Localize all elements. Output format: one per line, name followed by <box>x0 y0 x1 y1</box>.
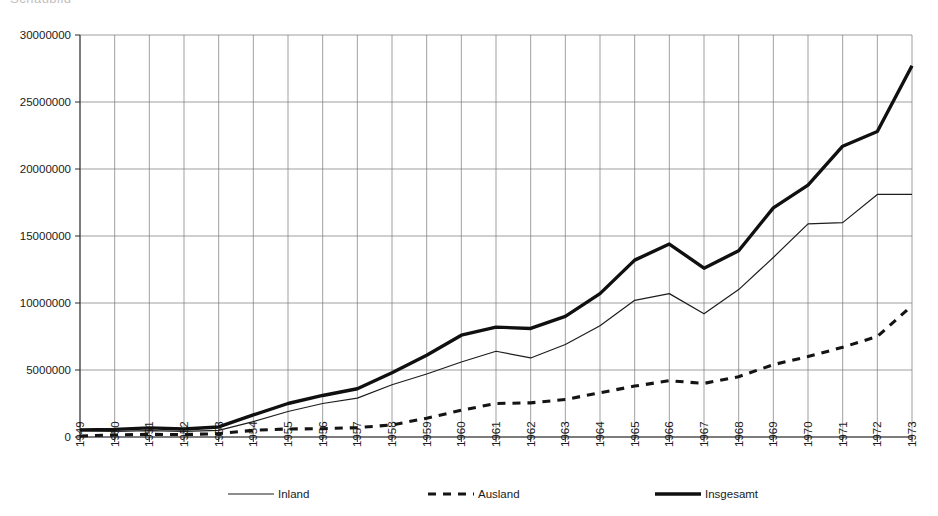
x-tick-label: 1968 <box>733 421 745 447</box>
x-tick-label: 1959 <box>421 421 433 447</box>
axes-layer <box>75 35 912 442</box>
x-tick-label: 1972 <box>871 421 883 447</box>
x-tick-label: 1954 <box>247 421 259 447</box>
y-tick-label: 30000000 <box>20 29 71 41</box>
y-tick-label: 5000000 <box>26 364 71 376</box>
y-tick-label: 15000000 <box>20 230 71 242</box>
x-tick-label: 1967 <box>698 421 710 447</box>
x-tick-label: 1963 <box>559 421 571 447</box>
clipped-page-title: Schaubild <box>10 0 72 6</box>
y-tick-label: 20000000 <box>20 163 71 175</box>
x-tick-label: 1964 <box>594 421 606 447</box>
chart-legend: InlandAuslandInsgesamt <box>228 488 759 500</box>
x-tick-label: 1960 <box>455 421 467 447</box>
x-tick-label: 1961 <box>490 421 502 447</box>
x-tick-label: 1971 <box>837 421 849 447</box>
chart-container: Schaubild 050000001000000015000000200000… <box>0 0 938 516</box>
x-tick-label: 1970 <box>802 421 814 447</box>
x-tick-label: 1966 <box>663 421 675 447</box>
y-tick-label: 0 <box>65 431 71 443</box>
x-tick-label: 1949 <box>74 421 86 447</box>
y-tick-label: 10000000 <box>20 297 71 309</box>
x-tick-label: 1973 <box>906 421 918 447</box>
y-axis-tick-labels: 0500000010000000150000002000000025000000… <box>20 29 71 443</box>
legend-label-inland: Inland <box>278 488 309 500</box>
legend-label-insgesamt: Insgesamt <box>705 488 759 500</box>
x-tick-label: 1956 <box>317 421 329 447</box>
grid-layer <box>80 35 912 437</box>
x-tick-label: 1969 <box>767 421 779 447</box>
x-tick-label: 1955 <box>282 421 294 447</box>
line-chart: 0500000010000000150000002000000025000000… <box>0 0 938 516</box>
y-tick-label: 25000000 <box>20 96 71 108</box>
x-tick-label: 1957 <box>351 421 363 447</box>
legend-label-ausland: Ausland <box>478 488 520 500</box>
x-tick-label: 1962 <box>525 421 537 447</box>
x-tick-label: 1965 <box>629 421 641 447</box>
